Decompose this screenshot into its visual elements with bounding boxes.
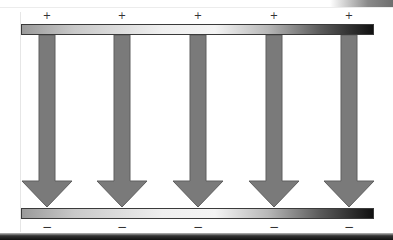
positive-plate	[21, 24, 374, 35]
field-arrow-down-icon	[172, 35, 224, 208]
field-arrow-down-icon	[248, 35, 300, 208]
corner-shade	[330, 0, 393, 7]
negative-plate	[21, 208, 374, 219]
plus-sign: +	[40, 11, 54, 21]
minus-sign: −	[342, 222, 356, 232]
minus-sign: −	[40, 222, 54, 232]
plus-sign: +	[342, 11, 356, 21]
bottom-shadow-band	[0, 233, 393, 240]
top-rule	[0, 7, 393, 8]
minus-sign: −	[191, 222, 205, 232]
minus-sign: −	[115, 222, 129, 232]
plus-sign: +	[191, 11, 205, 21]
minus-sign: −	[267, 222, 281, 232]
plus-sign: +	[115, 11, 129, 21]
field-arrow-down-icon	[323, 35, 375, 208]
field-arrow-down-icon	[21, 35, 73, 208]
field-arrow-down-icon	[96, 35, 148, 208]
plus-sign: +	[267, 11, 281, 21]
